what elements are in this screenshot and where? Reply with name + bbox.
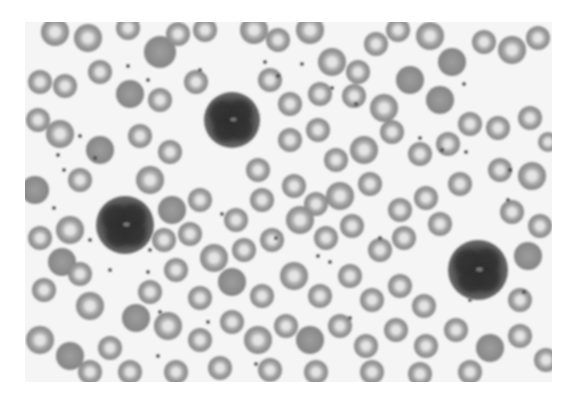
red-blood-cell [164,258,188,282]
platelet [354,102,358,106]
red-blood-cell [370,94,398,122]
platelet [56,153,60,157]
red-blood-cell [258,68,282,92]
red-blood-cell [32,278,56,302]
red-blood-cell [68,262,92,286]
red-blood-cell [416,22,444,50]
red-blood-cell [274,314,298,338]
white-blood-cell [204,92,260,148]
red-blood-cell [486,116,510,140]
blood-smear-micrograph [0,0,579,401]
platelet [198,68,202,72]
red-blood-cell [152,228,176,252]
red-blood-cell [308,82,332,106]
red-blood-cell [438,48,466,76]
red-blood-cell [448,172,472,196]
red-blood-cell [280,262,308,290]
red-blood-cell [122,304,150,332]
platelet [508,168,512,172]
red-blood-cell [41,18,69,46]
red-blood-cell [500,200,524,224]
red-blood-cell [386,18,410,42]
red-blood-cell [188,286,212,310]
red-blood-cell [282,174,306,198]
red-blood-cell [26,326,54,354]
red-blood-cell [98,336,122,360]
red-blood-cell [118,360,142,384]
red-blood-cell [414,186,438,210]
red-blood-cell [528,214,552,238]
red-blood-cell [340,214,364,238]
red-blood-cell [306,118,330,142]
white-blood-cell [96,196,154,254]
platelet [378,236,382,240]
platelet [300,62,304,66]
white-blood-cell [448,240,508,300]
platelet [440,148,444,152]
red-blood-cell [246,158,270,182]
red-blood-cell [76,292,104,320]
red-blood-cell [136,166,164,194]
red-blood-cell [178,222,202,246]
red-blood-cell [28,226,52,250]
red-blood-cell [220,310,244,334]
red-blood-cell [56,216,84,244]
red-blood-cell [78,360,102,384]
platelet [62,168,66,172]
red-blood-cell [158,196,186,224]
red-blood-cell [444,318,468,342]
red-blood-cell [244,326,272,354]
platelet [220,212,224,216]
red-blood-cell [518,106,542,130]
platelet [462,82,466,86]
red-blood-cell [116,16,140,40]
red-blood-cell [28,70,52,94]
red-blood-cell [354,334,378,358]
red-blood-cell [53,74,77,98]
red-blood-cell [384,318,408,342]
red-blood-cell [258,358,282,382]
red-blood-cell [360,360,384,384]
red-blood-cell [250,284,274,308]
red-blood-cell [436,132,460,156]
red-blood-cell [148,88,172,112]
red-blood-cell [392,226,416,250]
platelet [522,290,526,294]
platelet [108,268,112,272]
red-blood-cell [388,274,412,298]
platelet [263,60,267,64]
red-blood-cell [240,16,268,44]
red-blood-cell [472,30,496,54]
red-blood-cell [26,108,50,132]
platelet [158,310,162,314]
platelet [348,316,352,320]
platelet [52,206,56,210]
red-blood-cell [426,86,454,114]
red-blood-cell [388,198,412,222]
red-blood-cell [360,288,384,312]
platelet [148,248,152,252]
red-blood-cell [154,312,182,340]
red-blood-cell [342,84,366,108]
red-blood-cell [350,136,378,164]
platelet [78,134,82,138]
red-blood-cell [128,124,152,148]
red-blood-cell [324,148,348,172]
red-blood-cell [304,360,328,384]
platelet [206,320,210,324]
platelet [276,74,280,78]
red-blood-cell [296,326,324,354]
red-blood-cell [518,162,546,190]
red-blood-cell [184,70,208,94]
platelet [146,78,150,82]
red-blood-cell [498,36,526,64]
red-blood-cell [508,324,532,348]
red-blood-cell [296,16,324,44]
platelet [156,354,160,358]
platelet [418,136,422,140]
red-blood-cell [188,328,212,352]
red-blood-cell [138,280,162,304]
red-blood-cell [318,48,346,76]
red-blood-cell [508,288,532,312]
red-blood-cell [250,188,274,212]
